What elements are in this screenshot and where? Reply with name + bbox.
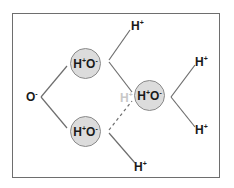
hydrogen-ion-right-top: H+ xyxy=(195,56,208,68)
hydrogen-ion-faint: H+ xyxy=(120,92,133,104)
hydrogen-ion-bottom: H+ xyxy=(134,161,147,173)
bond-o-to-top xyxy=(41,66,67,97)
bond-bottom-to-h xyxy=(109,133,135,163)
bond-top-to-h xyxy=(109,30,130,60)
bond-right-to-h-top xyxy=(171,65,195,97)
water-label-top: H+O- xyxy=(73,58,97,70)
hydrogen-bond-dashed xyxy=(109,101,132,130)
water-label-right: H+O- xyxy=(137,90,161,102)
oxygen-ion-left: O- xyxy=(26,91,38,103)
bond-top-to-right xyxy=(109,62,132,92)
bond-right-to-h-bottom xyxy=(171,97,195,127)
water-molecule-top: H+O- xyxy=(70,48,101,79)
hydrogen-ion-top: H+ xyxy=(131,20,144,32)
water-molecule-right: H+O- xyxy=(134,80,165,111)
water-label-bottom: H+O- xyxy=(73,126,97,138)
water-molecule-bottom: H+O- xyxy=(70,116,101,147)
hydrogen-ion-right-bottom: H+ xyxy=(195,124,208,136)
bond-o-to-bottom xyxy=(41,97,67,128)
